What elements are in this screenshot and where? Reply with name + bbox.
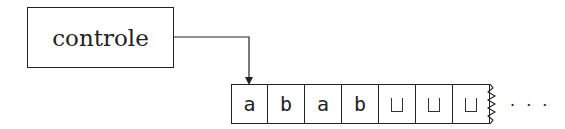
tape-cell: b [342, 84, 379, 124]
blank-symbol-icon [428, 98, 440, 112]
tape-cell-blank [416, 84, 453, 124]
blank-symbol-icon [465, 98, 477, 112]
blank-symbol-icon [391, 98, 403, 112]
tape-cell: a [231, 84, 268, 124]
tape-cell-blank [453, 84, 490, 124]
tape-cell-blank [379, 84, 416, 124]
tape: a b a b [231, 84, 490, 124]
tape-cell: a [305, 84, 342, 124]
tape-cell: b [268, 84, 305, 124]
tape-continuation: · · · [510, 96, 550, 115]
